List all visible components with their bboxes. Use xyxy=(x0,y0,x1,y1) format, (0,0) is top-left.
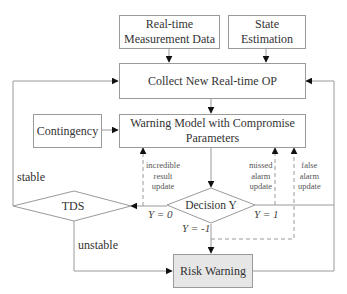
incredible-line-1: incredible xyxy=(146,160,180,171)
measurement-label-2: Measurement Data xyxy=(124,32,215,47)
warning-label-1: Warning Model with Compromise xyxy=(130,116,295,131)
false-alarm-line-1: false xyxy=(298,160,321,171)
risk-warning-label: Risk Warning xyxy=(180,264,246,279)
false-alarm-line-2: alarm xyxy=(298,171,321,182)
y1-label: Y = 1 xyxy=(254,208,279,220)
missed-line-3: update xyxy=(249,181,273,192)
tds-label: TDS xyxy=(62,199,85,214)
unstable-label: unstable xyxy=(78,238,118,253)
incredible-update-label: incredible result update xyxy=(146,160,180,192)
decision-label: Decision Y xyxy=(185,199,237,211)
false-alarm-line-3: update xyxy=(298,181,321,192)
warning-model-box: Warning Model with Compromise Parameters xyxy=(119,114,306,148)
yneg1-label: Y = -1 xyxy=(182,222,210,234)
missed-line-1: missed xyxy=(249,160,273,171)
state-label-2: Estimation xyxy=(241,32,293,47)
y0-label: Y = 0 xyxy=(148,208,173,220)
measurement-label-1: Real-time xyxy=(146,17,193,32)
incredible-line-2: result xyxy=(146,171,180,182)
false-alarm-update-label: false alarm update xyxy=(298,160,321,192)
contingency-label: Contingency xyxy=(37,124,98,139)
contingency-box: Contingency xyxy=(33,114,102,148)
state-estimation-box: State Estimation xyxy=(228,15,306,49)
warning-label-2: Parameters xyxy=(186,131,239,146)
collect-label: Collect New Real-time OP xyxy=(148,74,277,89)
risk-warning-box: Risk Warning xyxy=(173,254,253,288)
collect-op-box: Collect New Real-time OP xyxy=(119,63,306,99)
missed-alarm-update-label: missed alarm update xyxy=(249,160,273,192)
stable-label: stable xyxy=(17,170,45,185)
state-label-1: State xyxy=(255,17,279,32)
incredible-line-3: update xyxy=(146,181,180,192)
measurement-data-box: Real-time Measurement Data xyxy=(119,15,220,49)
missed-line-2: alarm xyxy=(249,171,273,182)
